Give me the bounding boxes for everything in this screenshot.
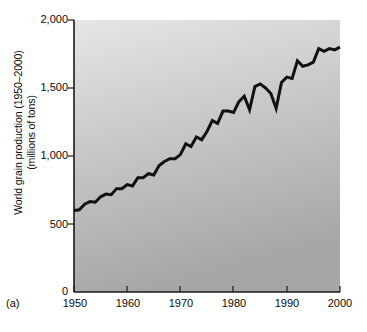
- y-tick-label: 2,000: [40, 13, 68, 25]
- figure-panel: World grain production (1950–2000)(milli…: [0, 0, 367, 332]
- y-axis-tick-labels: 2,000 1,500 1,000 500 0: [0, 0, 68, 332]
- x-tick-label: 1970: [164, 297, 198, 309]
- y-tick-label: 500: [50, 218, 68, 230]
- y-tick-label: 0: [62, 285, 68, 297]
- x-tick-label: 2000: [323, 297, 357, 309]
- x-tick-label: 1990: [270, 297, 304, 309]
- y-tick-label: 1,000: [40, 149, 68, 161]
- panel-label: (a): [6, 297, 19, 309]
- y-tick-label: 1,500: [40, 81, 68, 93]
- x-tick-label: 1980: [217, 297, 251, 309]
- plot-background: [74, 20, 340, 292]
- x-tick-label: 1950: [58, 297, 92, 309]
- x-tick-label: 1960: [111, 297, 145, 309]
